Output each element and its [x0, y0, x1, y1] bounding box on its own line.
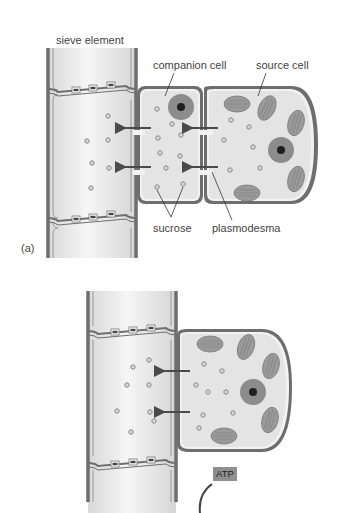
companion-cell [133, 86, 203, 204]
label-companion-cell: companion cell [153, 60, 226, 71]
atp-badge: ATP [213, 467, 237, 481]
atp-curve [200, 484, 212, 513]
label-source-cell: source cell [256, 60, 309, 71]
source-cell-b [177, 329, 292, 452]
sieve-element-b [88, 291, 176, 513]
sieve-element-a [48, 48, 136, 258]
phloem-loading-diagram [0, 0, 339, 513]
source-cell-a [199, 86, 318, 204]
label-sieve-element: sieve element [56, 35, 124, 46]
panel-a-label: (a) [21, 243, 34, 254]
panel-b [88, 291, 292, 513]
label-plasmodesma: plasmodesma [212, 223, 280, 234]
label-sucrose: sucrose [153, 223, 192, 234]
